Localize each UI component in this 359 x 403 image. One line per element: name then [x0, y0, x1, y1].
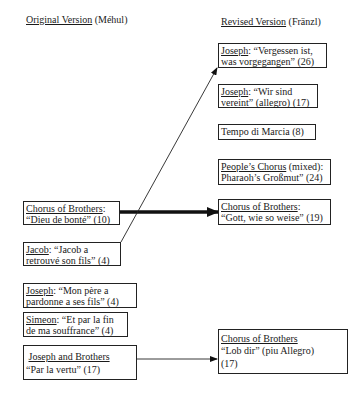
singer-label: Chorus of Brothers — [221, 333, 298, 344]
piece-text: “Lob dir” (piu Allegro) — [221, 345, 314, 356]
singer-label: Chorus of Brothers — [221, 201, 298, 212]
piece-text: Tempo di Marcia (8) — [221, 126, 304, 137]
original-item-joseph-and-brothers: Joseph and Brothers “Par la vertu” (17) — [23, 345, 137, 380]
original-item-jacob: Jacob: “Jacob a retrouvé son fils” (4) — [23, 242, 121, 266]
separator: : — [298, 201, 301, 212]
piece-text: Pharaoh’s Großmut” (24) — [221, 172, 323, 183]
revised-item-joseph-vergessen: Joseph: “Vergessen ist, was vorgegangen”… — [218, 43, 327, 68]
piece-text-start: : “Jacob a — [49, 244, 88, 255]
voice-type: (mixed): — [286, 161, 323, 172]
singer-label: Joseph — [26, 285, 53, 296]
singer-label: Chorus of Brothers — [26, 203, 103, 214]
original-item-chorus-dieu: Chorus of Brothers: “Dieu de bonté” (10) — [23, 201, 120, 225]
singer-label: Joseph and Brothers — [29, 351, 110, 362]
singer-label: Jacob — [26, 244, 49, 255]
piece-text: “Gott, wie so weise” (19) — [221, 212, 323, 223]
revised-item-peoples-chorus: People’s Chorus (mixed): Pharaoh’s Großm… — [218, 159, 331, 185]
revised-item-chorus-gott: Chorus of Brothers: “Gott, wie so weise”… — [218, 199, 331, 225]
arrow-jacob-to-vergessen — [121, 68, 217, 242]
singer-label: Simeon — [26, 314, 57, 325]
singer-label: People’s Chorus — [221, 161, 286, 172]
original-item-joseph-mon-pere: Joseph: “Mon père a pardonne a ses fils”… — [23, 283, 137, 308]
piece-text: “Par la vertu” (17) — [26, 364, 100, 375]
piece-text: pardonne a ses fils” (4) — [26, 296, 119, 307]
piece-text-start: : “Vergessen ist, — [248, 45, 313, 56]
piece-text: vereint” (allegro) (17) — [221, 97, 309, 108]
singer-label: Joseph — [221, 86, 248, 97]
original-item-simeon: Simeon: “Et par la fin de ma souffrance”… — [23, 312, 128, 337]
piece-text: de ma souffrance” (4) — [26, 325, 113, 336]
revised-item-chorus-lob-dir: Chorus of Brothers “Lob dir” (piu Allegr… — [218, 329, 348, 374]
piece-text: “Dieu de bonté” (10) — [26, 214, 110, 225]
piece-text: was vorgegangen” (26) — [221, 56, 314, 67]
bar-count: (17) — [221, 358, 238, 369]
piece-text: retrouvé son fils” (4) — [26, 255, 110, 266]
piece-text-start: : “Wir sind — [248, 86, 292, 97]
piece-text-start: : “Mon père a — [53, 285, 108, 296]
revised-item-tempo-di-marcia: Tempo di Marcia (8) — [218, 124, 316, 140]
revised-item-joseph-wir-sind: Joseph: “Wir sind vereint” (allegro) (17… — [218, 84, 318, 108]
singer-label: Joseph — [221, 45, 248, 56]
piece-text-start: : “Et par la fin — [57, 314, 114, 325]
separator: : — [103, 203, 106, 214]
